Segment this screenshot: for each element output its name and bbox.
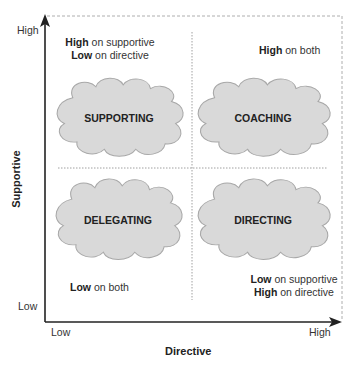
desc-directing: Low on supportive High on directive bbox=[244, 273, 344, 299]
desc-supporting: High on supportive Low on directive bbox=[58, 36, 162, 62]
y-axis-low-label: Low bbox=[18, 300, 37, 313]
quadrant-label-directing: DIRECTING bbox=[234, 214, 292, 226]
desc-delegating-bold: Low bbox=[70, 281, 91, 293]
desc-coaching-rest: on both bbox=[282, 44, 320, 56]
x-axis-title: Directive bbox=[165, 345, 211, 357]
desc-supporting-rest-1: on supportive bbox=[89, 36, 155, 48]
desc-delegating: Low on both bbox=[70, 281, 129, 294]
desc-delegating-rest: on both bbox=[91, 281, 129, 293]
x-axis-high-label: High bbox=[309, 326, 331, 339]
desc-directing-bold-1: Low bbox=[251, 273, 272, 285]
y-axis-title: Supportive bbox=[10, 149, 22, 209]
desc-directing-bold-2: High bbox=[254, 286, 277, 298]
quadrant-label-supporting: SUPPORTING bbox=[84, 112, 153, 124]
quadrant-label-delegating: DELEGATING bbox=[84, 214, 152, 226]
desc-directing-rest-1: on supportive bbox=[272, 273, 338, 285]
desc-supporting-bold-1: High bbox=[65, 36, 88, 48]
desc-supporting-bold-2: Low bbox=[71, 49, 92, 61]
desc-directing-rest-2: on directive bbox=[277, 286, 334, 298]
desc-coaching: High on both bbox=[259, 44, 320, 57]
y-axis-high-label: High bbox=[17, 24, 39, 37]
desc-supporting-rest-2: on directive bbox=[92, 49, 149, 61]
desc-coaching-bold: High bbox=[259, 44, 282, 56]
quadrant-label-coaching: COACHING bbox=[234, 112, 291, 124]
x-axis-low-label: Low bbox=[51, 326, 70, 339]
